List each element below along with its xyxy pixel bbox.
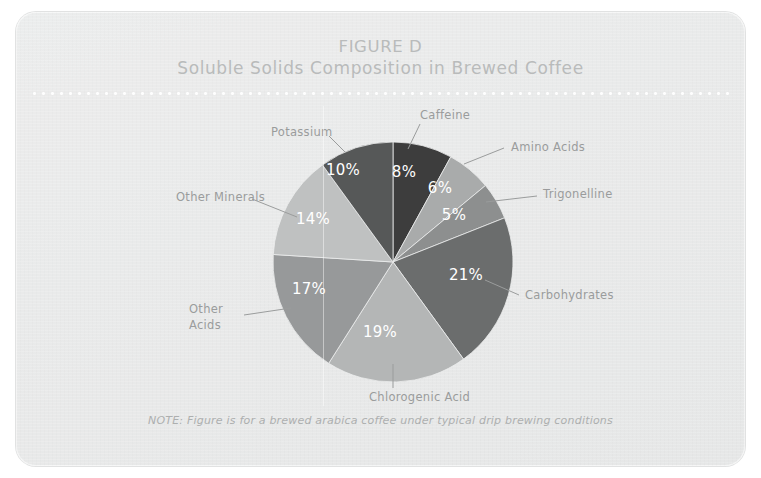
pie-percent-other-minerals: 14% xyxy=(296,210,330,228)
pie-label-caffeine: Caffeine xyxy=(420,108,470,122)
pie-label-potassium: Potassium xyxy=(271,125,333,139)
pie-chart: 8%6%5%21%19%17%14%10% CaffeineAmino Acid… xyxy=(16,12,745,466)
leader-line-amino-acids xyxy=(464,148,504,164)
pie-percent-trigonelline: 5% xyxy=(442,206,466,224)
pie-percent-amino-acids: 6% xyxy=(428,179,452,197)
pie-label-amino-acids: Amino Acids xyxy=(511,140,585,154)
pie-label-other-acids: OtherAcids xyxy=(189,302,223,332)
pie-label-trigonelline: Trigonelline xyxy=(542,187,613,201)
pie-label-chlorogenic-acid: Chlorogenic Acid xyxy=(369,390,470,404)
pie-percent-caffeine: 8% xyxy=(392,163,416,181)
pie-chart-svg: 8%6%5%21%19%17%14%10% CaffeineAmino Acid… xyxy=(16,12,745,466)
pie-label-other-minerals: Other Minerals xyxy=(176,190,265,204)
pie-percent-other-acids: 17% xyxy=(292,280,326,298)
pie-percent-chlorogenic-acid: 19% xyxy=(363,323,397,341)
figure-card: FIGURE D Soluble Solids Composition in B… xyxy=(16,12,745,466)
pie-percent-carbohydrates: 21% xyxy=(449,266,483,284)
pie-label-carbohydrates: Carbohydrates xyxy=(525,288,614,302)
pie-percent-potassium: 10% xyxy=(326,161,360,179)
